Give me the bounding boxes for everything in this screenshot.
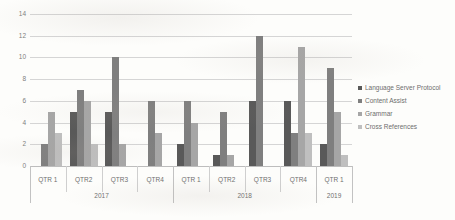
y-tick-label-0: 0	[4, 162, 26, 169]
x-tick-label: QTR4	[280, 176, 316, 183]
bar	[298, 47, 305, 166]
bar	[191, 123, 198, 166]
legend-label: Content Assist	[365, 97, 407, 104]
legend-label: Language Server Protocol	[365, 84, 441, 91]
x-tick-label: QTR2	[209, 176, 245, 183]
legend-item[interactable]: Grammar	[358, 107, 454, 120]
x-axis-tick	[66, 166, 67, 192]
x-axis-group-separator	[352, 166, 353, 203]
bar-group	[316, 14, 352, 166]
x-tick-label: QTR 1	[316, 176, 352, 183]
y-tick-label-6: 6	[4, 97, 26, 104]
bar	[112, 57, 119, 166]
x-tick-label: QTR 1	[173, 176, 209, 183]
y-tick-label-12: 12	[4, 32, 26, 39]
bar	[177, 144, 184, 166]
x-axis-tick	[137, 166, 138, 192]
bar	[148, 101, 155, 166]
bar	[105, 112, 112, 166]
bar	[341, 155, 348, 166]
bar	[91, 144, 98, 166]
legend-swatch-icon	[358, 86, 362, 90]
x-axis-tick	[245, 166, 246, 192]
bar	[84, 101, 91, 166]
legend-swatch-icon	[358, 99, 362, 103]
chart-legend: Language Server ProtocolContent AssistGr…	[358, 81, 454, 133]
bar	[213, 155, 220, 166]
bar-group	[102, 14, 138, 166]
y-axis: 02468101214	[0, 14, 26, 166]
bar	[227, 155, 234, 166]
bar	[119, 144, 126, 166]
bar	[55, 133, 62, 166]
bar	[334, 112, 341, 166]
y-tick-label-2: 2	[4, 140, 26, 147]
bar	[184, 101, 191, 166]
bar	[249, 101, 256, 166]
bar	[320, 144, 327, 166]
x-tick-label: QTR2	[66, 176, 102, 183]
bar	[284, 101, 291, 166]
x-axis-group-label: 2019	[316, 192, 352, 199]
y-tick-label-14: 14	[4, 10, 26, 17]
legend-item[interactable]: Language Server Protocol	[358, 81, 454, 94]
bar-group	[173, 14, 209, 166]
bar	[291, 133, 298, 166]
x-axis-tick	[209, 166, 210, 192]
legend-label: Grammar	[365, 110, 392, 117]
bar	[327, 68, 334, 166]
bar	[48, 112, 55, 166]
bar-group	[209, 14, 245, 166]
x-tick-label: QTR 1	[30, 176, 66, 183]
x-axis-baseline	[30, 166, 352, 167]
bar	[70, 112, 77, 166]
x-axis-group-label: 2017	[30, 192, 173, 199]
bar-group	[245, 14, 281, 166]
plot-area	[30, 14, 352, 166]
bar-group	[30, 14, 66, 166]
y-tick-label-10: 10	[4, 53, 26, 60]
x-tick-label: QTR4	[137, 176, 173, 183]
bar	[41, 144, 48, 166]
bar	[305, 133, 312, 166]
x-axis-group-separator	[173, 166, 174, 203]
x-tick-label: QTR3	[102, 176, 138, 183]
bar-group	[66, 14, 102, 166]
x-axis-group-label: 2018	[173, 192, 316, 199]
legend-swatch-icon	[358, 125, 362, 129]
bar-group	[137, 14, 173, 166]
bar	[155, 133, 162, 166]
y-tick-label-8: 8	[4, 75, 26, 82]
legend-item[interactable]: Content Assist	[358, 94, 454, 107]
bar	[256, 36, 263, 166]
x-axis-group-separator	[316, 166, 317, 203]
bars-layer	[30, 14, 352, 166]
bar-group	[280, 14, 316, 166]
x-axis-group-separator	[30, 166, 31, 203]
bar	[77, 90, 84, 166]
x-tick-label: QTR3	[245, 176, 281, 183]
x-axis-tick	[280, 166, 281, 192]
legend-item[interactable]: Cross References	[358, 120, 454, 133]
bar	[220, 112, 227, 166]
y-tick-label-4: 4	[4, 119, 26, 126]
chart-page: 02468101214 QTR 1QTR2QTR3QTR4QTR 1QTR2QT…	[0, 0, 455, 220]
x-axis-tick	[102, 166, 103, 192]
legend-swatch-icon	[358, 112, 362, 116]
legend-label: Cross References	[365, 123, 417, 130]
